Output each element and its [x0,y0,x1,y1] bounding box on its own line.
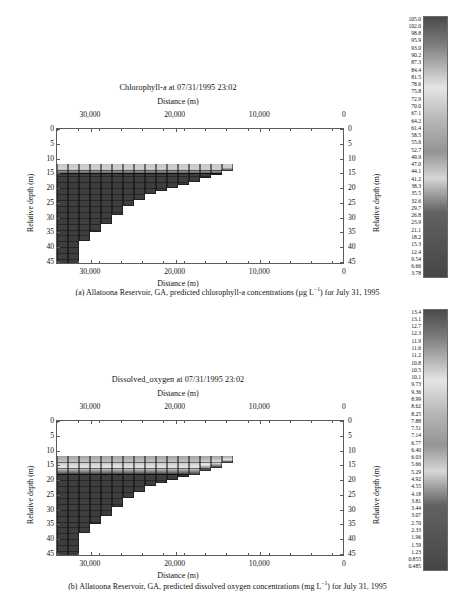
colorbar-tick-label: 67.1 [411,111,421,117]
thermocline-edge [211,467,222,468]
data-cell [57,164,68,264]
thermocline-edge [189,474,200,475]
cell-gridline [68,498,79,499]
cell-gridline [57,200,68,201]
y-tick-mark [340,247,343,248]
x-minor-tick-mark [142,129,143,131]
cell-gridline [90,218,101,219]
cell-gridline [79,486,90,487]
cell-gridline [123,486,134,487]
thermocline-edge [156,173,167,174]
colorbar-tick-label: 38.3 [411,184,421,190]
cell-gridline [156,462,167,463]
panel-b-caption-suffix: ) for July 31, 1995 [327,582,386,591]
x-minor-tick-mark [78,553,79,555]
x-minor-tick-mark [142,553,143,555]
thermocline-edge [101,474,112,475]
thermocline-edge [112,173,123,174]
x-tick-mark [260,260,261,263]
surface-layer-cell [134,456,145,474]
cell-gridline [57,533,68,534]
cell-gridline [101,492,112,493]
cell-gridline [68,176,79,177]
cell-gridline [68,188,79,189]
surface-layer-cell [79,456,90,474]
colorbar-tick-label: 70.0 [411,104,421,110]
x-tick-label: 0 [342,559,346,568]
colorbar-tick-label: 47.0 [411,162,421,168]
cell-gridline [101,188,112,189]
colorbar-tick-label: 52.7 [411,148,421,154]
y-tick-label: 30 [348,212,356,221]
cell-gridline [211,170,222,171]
x-tick-label: 0 [342,110,346,119]
panel-b-x-tick-labels-bottom: 30,00020,00010,0000 [0,559,356,570]
y-tick-mark [340,203,343,204]
colorbar-tick-label: 49.9 [411,155,421,161]
y-tick-mark [57,421,60,422]
y-tick-mark [340,524,343,525]
cell-gridline [79,522,90,523]
x-minor-tick-mark [99,553,100,555]
colorbar-tick-label: 9.54 [411,257,421,263]
panel-b-x-tick-labels-top: 30,00020,00010,0000 [0,402,356,413]
colorbar-tick-label: 10.5 [411,368,421,374]
surface-layer-cell [156,164,167,173]
y-tick-mark [57,539,60,540]
panel-a-caption-suffix: ) for July 31, 1995 [320,288,379,297]
colorbar-tick-label: 2.70 [411,521,421,527]
panel-b-caption-prefix: (b) [68,582,77,591]
cell-gridline [79,510,90,511]
y-tick-mark [57,495,60,496]
cell-gridline [134,194,145,195]
cell-gridline [123,194,134,195]
surface-layer-cell [68,456,79,474]
colorbar-tick-label: 0.855 [408,557,421,563]
colorbar-tick-label: 6.66 [411,264,421,270]
x-tick-label: 0 [342,267,346,276]
x-minor-tick-mark [205,421,206,423]
colorbar-tick-label: 3.81 [411,499,421,505]
cell-gridline [68,462,79,463]
x-tick-mark [176,421,177,424]
surface-layer-cell [167,164,178,173]
thermocline-edge [145,173,156,174]
cell-gridline [123,188,134,189]
cell-gridline [79,504,90,505]
cell-gridline [90,212,101,213]
cell-gridline [178,170,189,171]
colorbar-tick-label: 11.9 [411,339,421,345]
panel-a-x-axis-title-top: Distance (m) [0,97,356,106]
cell-gridline [57,551,68,552]
x-tick-mark [91,260,92,263]
thermocline-edge [57,474,68,475]
y-tick-mark [340,421,343,422]
surface-layer-cell [145,456,156,474]
thermocline-edge [79,173,90,174]
thermocline-edge [68,173,79,174]
surface-layer-cell [57,164,68,173]
y-tick-mark [340,144,343,145]
cell-gridline [101,480,112,481]
cell-gridline [112,200,123,201]
y-tick-mark [57,436,60,437]
surface-layer-cell [101,456,112,474]
cell-gridline [112,468,123,469]
surface-layer-cell [167,456,178,474]
colorbar-tick-label: 13.1 [411,317,421,323]
panel-a: Chlorophyll-a at 07/31/1995 23:02 Distan… [0,0,455,305]
surface-layer-cell [112,164,123,173]
cell-gridline [79,200,90,201]
y-tick-label: 25 [348,197,356,206]
cell-gridline [189,468,200,469]
x-minor-tick-mark [290,129,291,131]
cell-gridline [112,462,123,463]
cell-gridline [112,170,123,171]
cell-gridline [101,170,112,171]
x-tick-mark [91,129,92,132]
cell-gridline [112,194,123,195]
panel-a-chart-title: Chlorophyll-a at 07/31/1995 23:02 [0,83,356,92]
panel-b-x-axis-title-bottom: Distance (m) [0,571,356,580]
x-tick-label: 30,000 [79,402,100,411]
cell-gridline [57,241,68,242]
